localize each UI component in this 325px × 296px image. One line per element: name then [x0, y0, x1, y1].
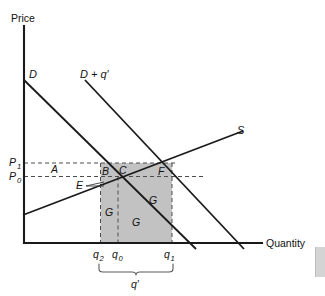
quantity-tick-q2: q 2	[93, 248, 105, 263]
quantity-tick-q0-base: q	[112, 248, 118, 260]
quantity-tick-q1-sub: 1	[171, 254, 175, 263]
supply-label: S	[237, 124, 245, 136]
region-g-right-label: G	[149, 194, 157, 206]
quantity-tick-q0: q 0	[112, 248, 124, 263]
price-tick-p1-base: P	[9, 156, 16, 168]
quantity-tick-q1: q 1	[164, 248, 175, 263]
price-tick-p0-sub: 0	[17, 176, 22, 185]
quantity-tick-q0-sub: 0	[119, 254, 124, 263]
supply-demand-figure: D D + q′ S Price Quantity P 1 P 0 q 2 q …	[0, 0, 325, 296]
demand-original-label: D	[29, 68, 37, 80]
region-g-left-label: G	[105, 206, 113, 218]
price-tick-p1-sub: 1	[17, 162, 21, 171]
quantity-span-brace	[99, 264, 173, 275]
region-a-label: A	[50, 163, 58, 175]
price-tick-p0: P 0	[9, 170, 22, 185]
demand-shifted-label: D + q′	[80, 68, 110, 80]
supply-demand-chart-svg: D D + q′ S Price Quantity P 1 P 0 q 2 q …	[0, 0, 325, 296]
region-e-label: E	[76, 179, 84, 191]
region-f-label: F	[158, 165, 165, 177]
price-tick-p0-base: P	[9, 170, 16, 182]
x-axis-label: Quantity	[266, 237, 306, 249]
region-c-label: C	[119, 164, 127, 176]
brace-label: q′	[131, 278, 140, 290]
price-tick-p1: P 1	[9, 156, 21, 171]
quantity-tick-q2-sub: 2	[99, 254, 105, 263]
scrollbar-thumb[interactable]	[315, 247, 325, 277]
y-axis-label: Price	[11, 12, 35, 24]
quantity-tick-q2-base: q	[93, 248, 99, 260]
region-g-center-label: G	[132, 216, 140, 228]
quantity-tick-q1-base: q	[164, 248, 170, 260]
region-b-label: B	[102, 165, 109, 177]
